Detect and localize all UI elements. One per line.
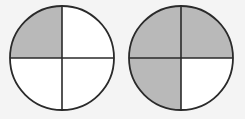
fraction-circle-right	[129, 6, 233, 110]
fraction-circle-left	[10, 6, 114, 110]
fraction-circles-diagram	[0, 0, 245, 119]
